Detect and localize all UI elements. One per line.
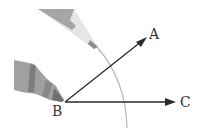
arrowhead-a-icon: [136, 37, 147, 47]
point-label-b: B: [52, 104, 62, 118]
pencil-icon: [38, 9, 98, 49]
point-label-a: A: [149, 27, 159, 41]
compass-leg-icon: [14, 60, 64, 102]
compass-arc: [97, 47, 127, 128]
angle-diagram: [0, 0, 200, 135]
point-label-c: C: [180, 95, 191, 109]
arrowhead-c-icon: [165, 98, 176, 106]
